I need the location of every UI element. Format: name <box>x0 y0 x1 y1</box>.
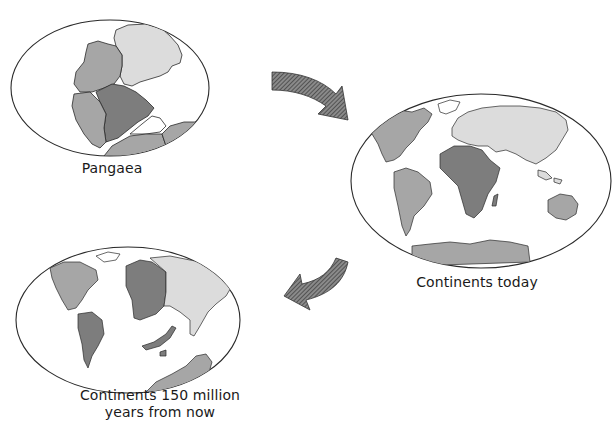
curved-arrow-right-down-icon <box>272 72 348 120</box>
future-caption-line1: Continents 150 million <box>60 387 260 404</box>
future-map <box>16 247 240 393</box>
curved-arrow-left-down-icon <box>284 258 348 310</box>
future-caption-line2: years from now <box>60 404 260 421</box>
continental-drift-diagram: Pangaea Continents today Continents 150 … <box>0 0 615 435</box>
pangaea-caption: Pangaea <box>62 160 162 177</box>
diagram-canvas <box>0 0 615 435</box>
pangaea-map <box>11 20 209 156</box>
future-caption: Continents 150 million years from now <box>60 387 260 421</box>
today-antarctica <box>412 240 530 266</box>
today-caption: Continents today <box>402 274 552 291</box>
today-map <box>351 94 611 268</box>
